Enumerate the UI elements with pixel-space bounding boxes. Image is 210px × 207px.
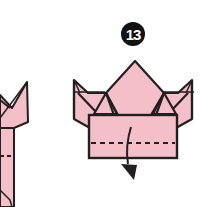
bottom-band [89,115,177,158]
arrow-head-icon [121,164,137,180]
previous-step-partial [0,82,28,207]
center-point [106,61,164,115]
step-number-badge: 13 [121,22,145,46]
origami-diagram [0,0,210,207]
